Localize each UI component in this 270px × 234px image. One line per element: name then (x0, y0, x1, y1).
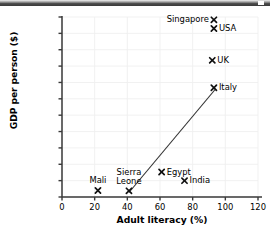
point-label-india: India (190, 175, 211, 185)
data-point-marker (95, 188, 100, 193)
point-label-mali: Mali (89, 175, 106, 185)
x-tick-label: 40 (122, 202, 133, 212)
y-axis-title: GDP per person ($) (8, 21, 19, 141)
point-label-uk: UK (217, 55, 229, 65)
scatter-chart: 0400080001200016000200002400028000320003… (0, 0, 270, 234)
point-label-singapore: Singapore (167, 14, 209, 24)
point-label-usa: USA (219, 23, 236, 33)
data-point-marker (211, 17, 216, 22)
x-tick-label: 100 (217, 202, 233, 212)
point-label-egypt: Egypt (167, 167, 191, 177)
x-axis-title: Adult literacy (%) (62, 214, 262, 225)
x-tick-label: 80 (187, 202, 198, 212)
x-tick-label: 60 (155, 202, 166, 212)
point-label-italy: Italy (219, 82, 237, 92)
data-point-marker (211, 26, 216, 31)
x-tick-label: 120 (250, 202, 266, 212)
x-tick-label: 20 (89, 202, 100, 212)
data-point-marker (210, 58, 215, 63)
x-tick-label: 0 (59, 202, 64, 212)
point-label-sierra-leone: Sierra Leone (112, 168, 146, 187)
data-point-marker (211, 85, 216, 90)
